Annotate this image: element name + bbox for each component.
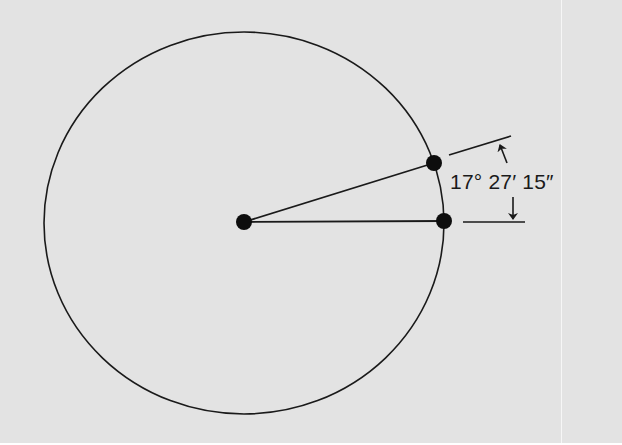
upper-point [426,155,442,171]
dimension-arrow-upper [500,145,507,163]
center-point [236,214,252,230]
circle-diagram [0,0,622,445]
radius-line-horizontal [244,221,444,222]
extension-line-upper [449,136,511,155]
right-point [436,213,452,229]
radius-line-upper [244,163,434,222]
angle-label: 17° 27′ 15″ [450,170,554,194]
